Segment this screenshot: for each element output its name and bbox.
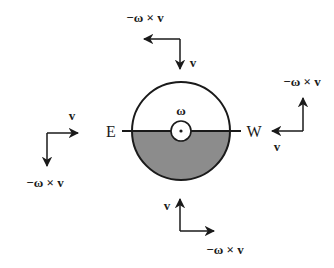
velocity-label-left: v — [69, 108, 76, 123]
coriolis-label-left: −ω × v — [26, 175, 64, 190]
vector-group-right: −ω × v v — [272, 74, 321, 154]
vector-group-left: v −ω × v — [26, 108, 78, 190]
velocity-label-bottom: v — [164, 198, 171, 213]
vector-group-bottom: v −ω × v — [164, 198, 244, 257]
east-label: E — [106, 123, 116, 140]
velocity-label-top: v — [190, 55, 197, 70]
west-label: W — [246, 123, 262, 140]
coriolis-label-right: −ω × v — [283, 74, 321, 89]
hub-dot-icon — [179, 129, 182, 132]
vector-group-top: −ω × v v — [126, 10, 196, 70]
omega-label: ω — [176, 103, 186, 118]
coriolis-label-bottom: −ω × v — [206, 242, 244, 257]
coriolis-diagram: ω E W −ω × v v −ω × v v v −ω × v v −ω × … — [0, 0, 334, 268]
velocity-label-right: v — [274, 139, 281, 154]
coriolis-label-top: −ω × v — [126, 10, 164, 25]
rotating-disk: ω E W — [106, 82, 262, 180]
